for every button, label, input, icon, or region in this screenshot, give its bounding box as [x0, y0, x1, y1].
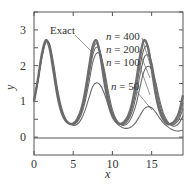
line-chart: 0510150123 Exact n = 400 n = 200 n = 100…: [0, 0, 190, 186]
y-tick-label: 3: [20, 23, 26, 37]
y-tick-label: 0: [20, 130, 26, 144]
y-tick-label: 2: [20, 59, 26, 73]
x-axis-label: x: [104, 167, 111, 181]
annotation-exact: Exact: [50, 24, 75, 36]
annotation-n400: n = 400: [106, 30, 140, 42]
axis-ticks: 0510150123: [20, 12, 183, 171]
annotations: Exact n = 400 n = 200 n = 100 n = 50: [50, 24, 140, 92]
x-tick-label: 5: [70, 157, 76, 171]
y-tick-label: 1: [20, 94, 26, 108]
annotation-n100: n = 100: [106, 56, 140, 68]
x-tick-label: 0: [31, 157, 37, 171]
x-tick-label: 15: [146, 157, 158, 171]
annotation-n50: n = 50: [111, 80, 140, 92]
annotation-n200: n = 200: [106, 43, 140, 55]
y-axis-label: y: [3, 84, 17, 91]
